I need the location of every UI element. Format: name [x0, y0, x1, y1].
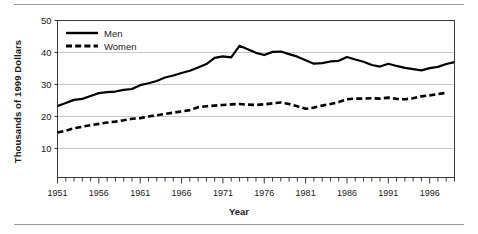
y-tick-label: 50 [41, 15, 52, 26]
x-tick-label: 1996 [420, 188, 440, 198]
x-tick-label: 1991 [378, 188, 398, 198]
legend-group: MenWomen [66, 28, 137, 52]
data-series-group [58, 46, 455, 133]
x-tick-marks-group [58, 178, 455, 184]
x-tick-label: 1981 [296, 188, 316, 198]
y-tick-label: 40 [41, 47, 52, 58]
x-tick-label: 1986 [337, 188, 357, 198]
x-tick-label: 1951 [47, 188, 67, 198]
legend-label-men: Men [104, 28, 122, 39]
y-tick-label: 10 [41, 143, 52, 154]
y-tick-label: 30 [41, 79, 52, 90]
x-tick-label: 1956 [89, 188, 109, 198]
x-tick-label: 1961 [130, 188, 150, 198]
x-tick-labels-group: 1951195619611966197119761981198619911996 [47, 188, 439, 198]
legend-label-women: Women [104, 41, 137, 52]
chart-plot: 1020304050 19511956196119661971197619811… [0, 0, 478, 234]
x-tick-label: 1976 [254, 188, 274, 198]
series-line-men [58, 46, 455, 106]
y-tick-label: 20 [41, 111, 52, 122]
y-tick-labels-group: 1020304050 [41, 15, 52, 154]
x-tick-label: 1971 [213, 188, 233, 198]
x-tick-label: 1966 [172, 188, 192, 198]
series-line-women [58, 93, 447, 133]
figure-container: Thousands of 1999 Dollars Year 102030405… [0, 0, 478, 234]
